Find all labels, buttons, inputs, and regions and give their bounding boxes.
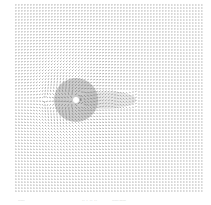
cylinder-obstacle xyxy=(73,97,79,103)
vector-field-plot xyxy=(0,0,211,195)
caption-middle: -- - -- -- xyxy=(82,198,97,202)
caption-left: ------ xyxy=(18,198,25,202)
caption-right: ------ ------ xyxy=(112,198,126,202)
figure-caption: ------ -- - -- -- ------ ------ xyxy=(0,196,211,205)
